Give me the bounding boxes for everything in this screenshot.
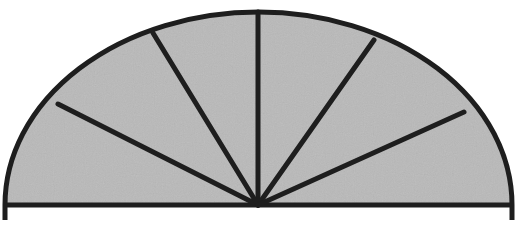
- semicircle-sector-diagram: [0, 0, 527, 225]
